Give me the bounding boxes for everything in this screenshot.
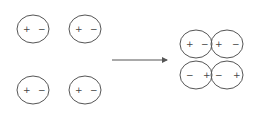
positive-sign: + [23,85,31,95]
negative-sign: − [186,70,194,80]
negative-sign: − [90,85,98,95]
positive-sign: + [233,70,241,80]
negative-sign: − [232,39,240,49]
negative-sign: − [90,24,98,34]
right-dipole-1: + − [180,30,212,58]
dipole-diagram: + − + − + − + − + − + − − + − + [0,0,257,113]
right-dipole-2: + − [211,30,243,58]
negative-sign: − [38,24,46,34]
negative-sign: − [215,70,223,80]
left-dipole-3: + − [17,76,49,104]
positive-sign: + [186,39,194,49]
positive-sign: + [215,39,223,49]
left-dipole-2: + − [69,15,101,43]
positive-sign: + [23,24,31,34]
negative-sign: − [201,39,209,49]
left-dipole-1: + − [17,15,49,43]
right-dipole-3: − + [180,61,212,89]
right-dipole-4: − + [211,61,243,89]
positive-sign: + [75,85,83,95]
negative-sign: − [38,85,46,95]
positive-sign: + [203,70,211,80]
positive-sign: + [75,24,83,34]
left-dipole-4: + − [69,76,101,104]
